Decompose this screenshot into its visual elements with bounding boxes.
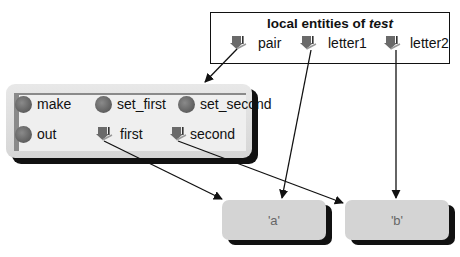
arrow-second	[178, 141, 343, 203]
pointer-icon	[300, 36, 316, 49]
arrows-layer	[0, 0, 460, 257]
arrow-pair	[205, 49, 237, 82]
pointer-icon	[230, 36, 246, 49]
arrow-first	[104, 141, 222, 199]
pointer-icon	[384, 36, 400, 49]
arrow-letter1	[282, 50, 311, 198]
pointer-icon	[170, 127, 186, 140]
pointer-icon	[96, 127, 112, 140]
